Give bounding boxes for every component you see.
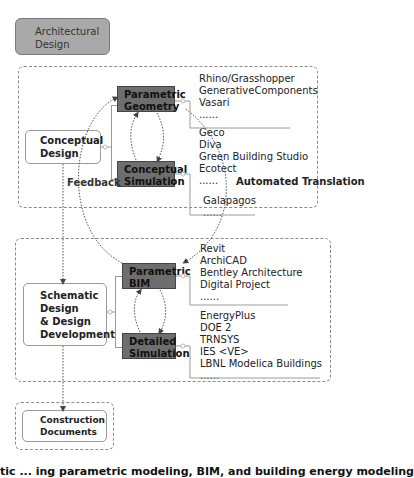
connector-overlay [0, 0, 349, 472]
